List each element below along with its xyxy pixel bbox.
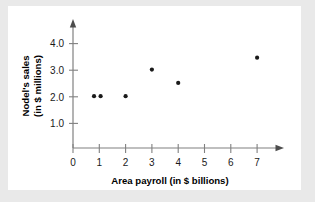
y-axis-title: Nodel's sales (in $ millions) — [20, 55, 43, 117]
y-tick-labels: 1.0 2.0 3.0 4.0 — [50, 38, 64, 129]
y-axis-title-line2: (in $ millions) — [32, 55, 43, 117]
y-tick-label-1: 1.0 — [50, 118, 64, 129]
x-axis-title: Area payroll (in $ billions) — [111, 175, 228, 186]
y-axis-title-line1: Nodel's sales — [20, 56, 31, 117]
x-tick-label-5: 5 — [202, 157, 208, 168]
figure-container: 1.0 2.0 3.0 4.0 0 1 2 3 4 5 6 7 Area pay… — [0, 0, 315, 202]
x-tick-label-2: 2 — [123, 157, 129, 168]
x-tick-labels: 0 1 2 3 4 5 6 7 — [70, 157, 260, 168]
y-tick-label-2: 2.0 — [50, 92, 64, 103]
data-points-layer — [92, 56, 259, 99]
data-point — [92, 94, 96, 98]
x-tick-label-4: 4 — [175, 157, 181, 168]
data-point — [150, 68, 154, 72]
x-axis-arrow-icon — [276, 145, 285, 151]
x-tick-label-0: 0 — [70, 157, 76, 168]
data-point — [255, 56, 259, 60]
data-point — [176, 81, 180, 85]
x-tick-label-1: 1 — [97, 157, 103, 168]
x-tick-label-3: 3 — [149, 157, 155, 168]
y-tick-label-4: 4.0 — [50, 38, 64, 49]
y-axis-arrow-icon — [70, 19, 76, 28]
x-tick-label-7: 7 — [254, 157, 260, 168]
y-tick-label-3: 3.0 — [50, 65, 64, 76]
scatter-chart: 1.0 2.0 3.0 4.0 0 1 2 3 4 5 6 7 Area pay… — [0, 0, 315, 202]
data-point — [99, 94, 103, 98]
y-axis — [70, 19, 76, 148]
data-point — [124, 94, 128, 98]
x-tick-label-6: 6 — [228, 157, 234, 168]
